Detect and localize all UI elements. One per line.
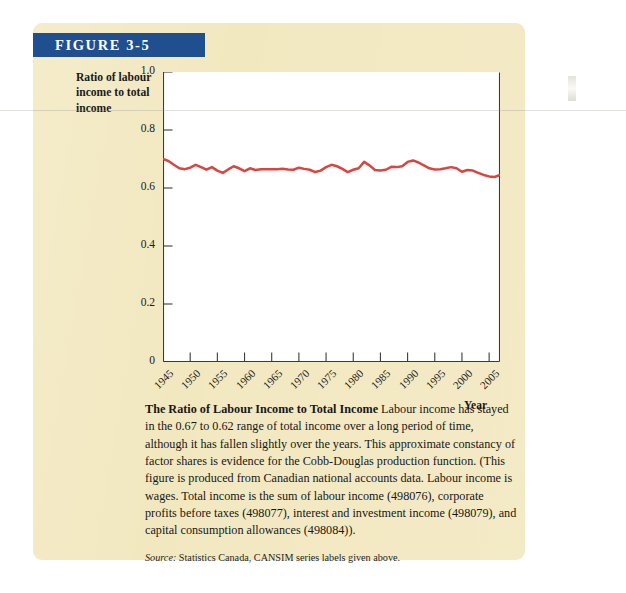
y-tick-label: 0.2 — [115, 296, 155, 308]
plot-svg — [163, 72, 500, 362]
y-tick-label: 0.8 — [115, 122, 155, 134]
caption-body-text: Labour income has stayed in the 0.67 to … — [145, 402, 516, 537]
x-tick-label: 1980 — [333, 367, 366, 400]
caption-title: The Ratio of Labour Income to Total Inco… — [145, 402, 378, 416]
x-tick-label: 1960 — [224, 367, 257, 400]
y-tick-label: 1.0 — [115, 64, 155, 76]
chart: 00.20.40.60.81.0 19451950195519601965197… — [33, 23, 525, 423]
x-tick-label: 1945 — [143, 367, 176, 400]
figure-panel: FIGURE 3-5 Ratio of labour income to tot… — [33, 23, 525, 560]
caption-source: Source: Statistics Canada, CANSIM series… — [145, 552, 517, 563]
labour-income-ratio-line — [163, 159, 500, 177]
y-tick-label: 0.4 — [115, 238, 155, 250]
x-tick-label: 2005 — [469, 367, 502, 400]
x-tick-label: 1985 — [360, 367, 393, 400]
x-tick-label: 1975 — [306, 367, 339, 400]
x-tick-marks — [163, 353, 489, 362]
x-tick-label: 1965 — [252, 367, 285, 400]
figure-caption: The Ratio of Labour Income to Total Inco… — [145, 401, 517, 563]
x-tick-label: 1955 — [197, 367, 230, 400]
x-tick-label: 1950 — [170, 367, 203, 400]
y-tick-label: 0 — [115, 354, 155, 366]
caption-text: The Ratio of Labour Income to Total Inco… — [145, 401, 517, 540]
caption-source-text: Statistics Canada, CANSIM series labels … — [179, 552, 400, 563]
plot-area — [163, 72, 500, 362]
x-tick-label: 1970 — [279, 367, 312, 400]
x-tick-label: 1995 — [415, 367, 448, 400]
caption-source-label: Source: — [145, 552, 176, 563]
y-tick-marks — [164, 72, 173, 362]
y-tick-label: 0.6 — [115, 180, 155, 192]
x-tick-label: 2000 — [442, 367, 475, 400]
axes — [164, 72, 500, 362]
x-tick-label: 1990 — [388, 367, 421, 400]
scan-artifact-speck — [568, 76, 576, 101]
